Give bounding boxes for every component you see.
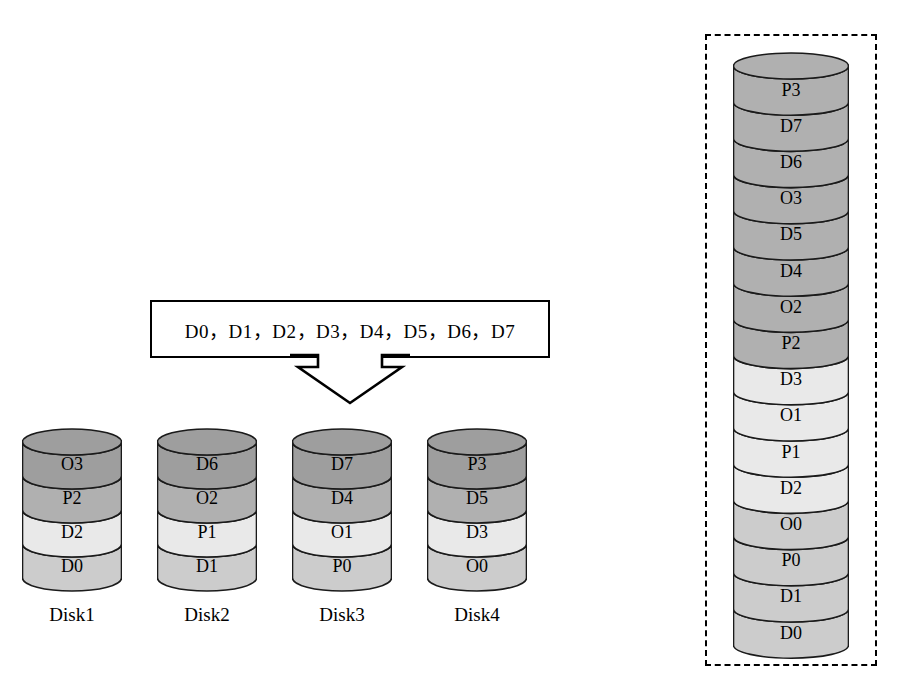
disk-cylinder-2-caption: Disk2 [157, 604, 257, 626]
disk-cylinder-1: O3P2D2D0Disk1 [22, 428, 122, 596]
consolidated-stack-cylinder: P3D7D6O3D5D4O2P2D3O1P1D2O0P0D1D0 [733, 52, 849, 663]
diagram-canvas: D0，D1，D2，D3，D4，D5，D6，D7 O3P2D2D0Disk1D6O… [0, 0, 903, 699]
disk-cylinder-1-caption: Disk1 [22, 604, 122, 626]
disk-cylinder-1-svg [22, 428, 122, 592]
source-data-box: D0，D1，D2，D3，D4，D5，D6，D7 [150, 300, 550, 358]
cylinder-top-cap [158, 429, 257, 455]
disk-cylinder-4: P3D5D3O0Disk4 [427, 428, 527, 596]
disk-cylinder-3: D7D4O1P0Disk3 [292, 428, 392, 596]
consolidated-stack-cylinder-svg [733, 52, 849, 659]
source-data-text: D0，D1，D2，D3，D4，D5，D6，D7 [185, 316, 515, 343]
down-arrow-icon [290, 353, 410, 405]
cylinder-top-cap [23, 429, 122, 455]
cylinder-top-cap [734, 53, 849, 79]
disk-cylinder-3-svg [292, 428, 392, 592]
disk-cylinder-2-svg [157, 428, 257, 592]
disk-cylinder-4-svg [427, 428, 527, 592]
cylinder-top-cap [293, 429, 392, 455]
down-arrow-svg [290, 353, 410, 405]
disk-cylinder-4-caption: Disk4 [427, 604, 527, 626]
disk-cylinder-3-caption: Disk3 [292, 604, 392, 626]
down-arrow-outline [290, 355, 410, 403]
cylinder-top-cap [428, 429, 527, 455]
disk-cylinder-2: D6O2P1D1Disk2 [157, 428, 257, 596]
